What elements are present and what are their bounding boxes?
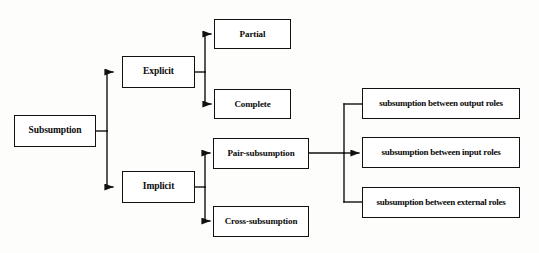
- node-external-roles-label: subsumption between external roles: [376, 198, 505, 207]
- node-complete-label: Complete: [234, 100, 270, 109]
- subsumption-hierarchy-diagram: Subsumption Explicit Implicit Partial Co…: [0, 0, 539, 253]
- node-input-roles-label: subsumption between input roles: [382, 148, 501, 157]
- node-subsumption-label: Subsumption: [29, 126, 82, 136]
- node-subsumption-between-external-roles[interactable]: subsumption between external roles: [362, 187, 520, 218]
- node-subsumption-between-output-roles[interactable]: subsumption between output roles: [362, 88, 520, 119]
- node-complete[interactable]: Complete: [214, 89, 291, 119]
- node-implicit[interactable]: Implicit: [122, 171, 195, 203]
- node-partial-label: Partial: [240, 30, 266, 39]
- node-pair-subsumption[interactable]: Pair-subsumption: [213, 138, 309, 169]
- node-subsumption-between-input-roles[interactable]: subsumption between input roles: [362, 137, 520, 168]
- node-cross-subsumption[interactable]: Cross-subsumption: [213, 206, 309, 237]
- node-explicit-label: Explicit: [143, 67, 174, 77]
- node-explicit[interactable]: Explicit: [122, 56, 195, 88]
- node-implicit-label: Implicit: [143, 182, 174, 192]
- node-pair-subsumption-label: Pair-subsumption: [227, 149, 294, 158]
- node-subsumption[interactable]: Subsumption: [14, 115, 96, 147]
- node-cross-subsumption-label: Cross-subsumption: [225, 217, 298, 226]
- node-partial[interactable]: Partial: [214, 19, 291, 49]
- node-output-roles-label: subsumption between output roles: [379, 99, 503, 108]
